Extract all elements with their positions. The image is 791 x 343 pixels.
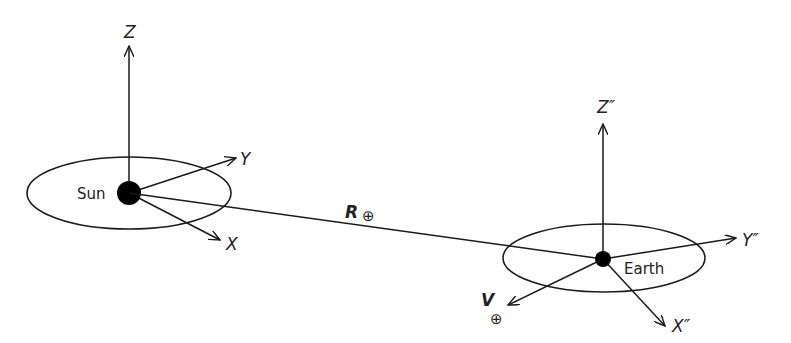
position-vector-subscript: ⊕: [362, 207, 375, 225]
sun-earth-line: [129, 193, 603, 259]
earth-z-label: Z″: [596, 97, 616, 117]
sun-label: Sun: [77, 185, 106, 203]
earth-y-axis: [603, 238, 736, 259]
earth-label: Earth: [624, 260, 664, 278]
velocity-vector-subscript: ⊕: [490, 310, 503, 328]
sun-frame: Sun Z Y X: [27, 22, 252, 254]
position-vector-symbol: R: [345, 202, 358, 222]
velocity-vector: [508, 259, 603, 305]
velocity-vector-symbol: V: [481, 290, 496, 310]
diagram-canvas: Sun Z Y X R ⊕ Earth Z″ Y″ X″ V ⊕: [0, 0, 791, 343]
earth-body: [595, 251, 611, 267]
earth-y-label: Y″: [742, 230, 759, 250]
sun-y-label: Y: [240, 149, 252, 169]
sun-z-label: Z: [123, 22, 136, 42]
earth-x-label: X″: [671, 316, 691, 336]
earth-frame: Earth Z″ Y″ X″ V ⊕: [481, 97, 759, 336]
sun-x-label: X: [225, 234, 238, 254]
position-vector: R ⊕: [129, 193, 603, 259]
sun-y-axis: [129, 158, 236, 193]
